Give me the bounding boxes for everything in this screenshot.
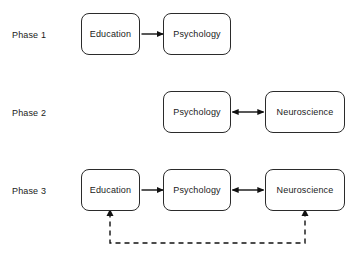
- diagram-canvas: Phase 1 Phase 2 Phase 3: [0, 0, 354, 259]
- node-neuroscience-phase3[interactable]: Neuroscience: [265, 169, 345, 211]
- node-label: Psychology: [173, 185, 221, 195]
- node-label: Psychology: [173, 107, 221, 117]
- node-psychology-phase3[interactable]: Psychology: [163, 169, 231, 211]
- node-education-phase3[interactable]: Education: [81, 169, 140, 211]
- node-psychology-phase2[interactable]: Psychology: [163, 91, 231, 133]
- phase-label-3: Phase 3: [12, 186, 46, 196]
- node-label: Neuroscience: [277, 185, 334, 195]
- node-neuroscience-phase2[interactable]: Neuroscience: [265, 91, 345, 133]
- node-label: Psychology: [173, 29, 221, 39]
- arrow-neuroscience-to-education-feedback: [107, 209, 309, 243]
- phase-label-2: Phase 2: [12, 108, 46, 118]
- node-label: Neuroscience: [277, 107, 334, 117]
- phase-label-1: Phase 1: [12, 30, 46, 40]
- node-label: Education: [90, 185, 131, 195]
- node-education-phase1[interactable]: Education: [81, 13, 140, 55]
- node-psychology-phase1[interactable]: Psychology: [163, 13, 231, 55]
- node-label: Education: [90, 29, 131, 39]
